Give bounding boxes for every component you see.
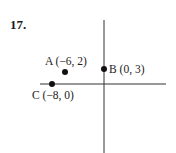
point-a (62, 69, 68, 75)
point-c-label: C (−8, 0) (32, 90, 74, 102)
point-a-label: A (−6, 2) (45, 56, 87, 68)
point-c (49, 81, 55, 87)
point-b (101, 66, 107, 72)
point-b-label: B (0, 3) (109, 64, 144, 76)
coordinate-plane (0, 0, 176, 153)
